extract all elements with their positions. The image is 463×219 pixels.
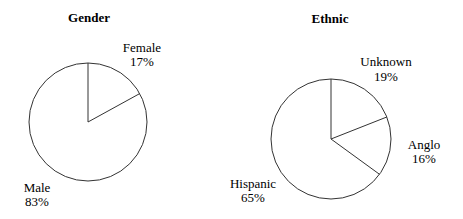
ethnic-pie-chart: Ethnic Unknown 19% Anglo 16% Hispanic 65… bbox=[230, 11, 440, 205]
pie-charts: Gender Female 17% Male 83% Ethnic Unknow… bbox=[0, 0, 463, 219]
female-percent: 17% bbox=[130, 54, 154, 69]
male-percent: 83% bbox=[25, 194, 49, 209]
ethnic-title: Ethnic bbox=[312, 11, 349, 26]
anglo-label: Anglo bbox=[408, 137, 441, 152]
unknown-label: Unknown bbox=[360, 54, 412, 69]
unknown-percent: 19% bbox=[374, 69, 398, 84]
gender-pie-chart: Gender Female 17% Male 83% bbox=[24, 10, 162, 209]
female-label: Female bbox=[123, 40, 161, 55]
male-label: Male bbox=[24, 180, 51, 195]
hispanic-label: Hispanic bbox=[230, 176, 276, 191]
gender-title: Gender bbox=[68, 10, 110, 25]
anglo-percent: 16% bbox=[412, 151, 436, 166]
hispanic-percent: 65% bbox=[241, 190, 265, 205]
